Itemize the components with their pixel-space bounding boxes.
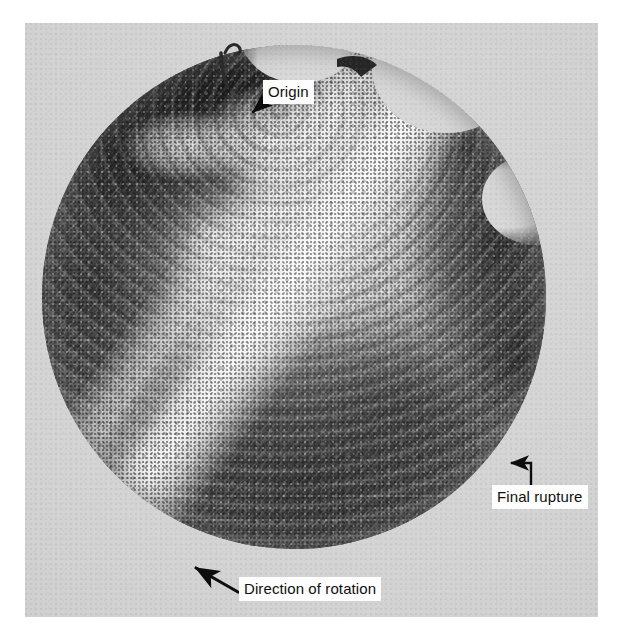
- origin-label: Origin: [263, 80, 314, 104]
- fracture-surface-disc: [42, 45, 546, 549]
- final-rupture-label: Final rupture: [492, 485, 588, 509]
- figure-page: Origin Final rupture Direction of rotati…: [0, 0, 620, 627]
- photograph-plate: [25, 23, 598, 617]
- rim-notch-upper-right: [372, 45, 522, 133]
- rim-notch-right-mid: [482, 153, 546, 245]
- direction-of-rotation-label: Direction of rotation: [239, 577, 381, 601]
- rim-notch-top-center: [240, 45, 360, 83]
